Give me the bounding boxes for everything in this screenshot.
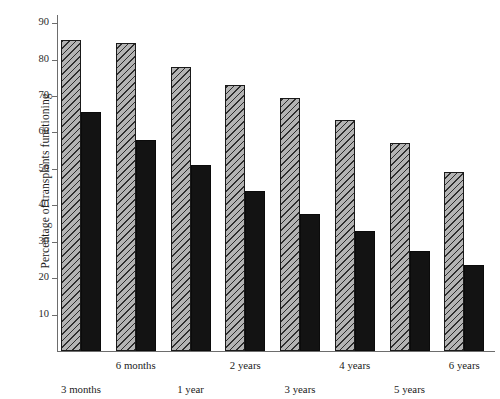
x-axis-label: 4 years — [339, 359, 370, 371]
x-axis-label: 1 year — [177, 383, 204, 395]
y-tick-label: 90 — [39, 16, 50, 27]
bar-group — [171, 14, 211, 351]
bar-solid — [191, 165, 211, 351]
y-tick-label: 20 — [39, 271, 50, 282]
y-tick-label: 80 — [39, 53, 50, 64]
y-tick-label: 60 — [39, 125, 50, 136]
plot-area: 102030405060708090 3 months6 months1 yea… — [57, 14, 495, 352]
bar-group — [116, 14, 156, 351]
x-axis-label: 2 years — [230, 359, 261, 371]
bar-hatched — [335, 120, 355, 351]
bar-hatched — [61, 40, 81, 351]
bar-group — [225, 14, 265, 351]
bar-solid — [300, 214, 320, 351]
bar-group — [280, 14, 320, 351]
bar-groups — [57, 14, 495, 352]
bar-group — [444, 14, 484, 351]
y-tick-label: 30 — [39, 235, 50, 246]
y-tick-label: 70 — [39, 89, 50, 100]
bar-hatched — [390, 143, 410, 351]
bar-group — [390, 14, 430, 351]
bar-solid — [355, 231, 375, 351]
bar-hatched — [225, 85, 245, 351]
bar-hatched — [171, 67, 191, 351]
y-tick-label: 40 — [39, 198, 50, 209]
x-axis-label: 3 years — [285, 383, 316, 395]
bar-group — [335, 14, 375, 351]
bar-solid — [136, 140, 156, 351]
bar-group — [61, 14, 101, 351]
bar-solid — [81, 112, 101, 351]
bar-solid — [245, 191, 265, 351]
x-axis-labels: 3 months6 months1 year2 years3 years4 ye… — [57, 352, 495, 399]
bar-solid — [410, 251, 430, 351]
bar-hatched — [116, 43, 136, 351]
bar-solid — [464, 265, 484, 351]
x-axis-label: 3 months — [61, 383, 101, 395]
bar-hatched — [280, 98, 300, 351]
x-axis-label: 5 years — [394, 383, 425, 395]
bar-hatched — [444, 172, 464, 351]
x-axis-label: 6 years — [449, 359, 480, 371]
y-tick-label: 10 — [39, 308, 50, 319]
y-tick-label: 50 — [39, 162, 50, 173]
x-axis-label: 6 months — [116, 359, 156, 371]
